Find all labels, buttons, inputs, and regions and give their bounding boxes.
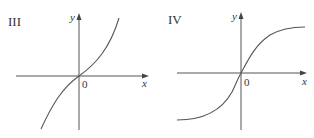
panel-iii: III x y 0: [8, 11, 149, 130]
panel-iv: IV x y 0: [168, 10, 307, 130]
y-axis-label: y: [231, 10, 237, 22]
panel-label: III: [8, 14, 21, 29]
panel-label: IV: [168, 12, 182, 27]
x-axis-label: x: [301, 75, 307, 87]
y-axis-arrow-icon: [77, 13, 82, 20]
curve-iii: [41, 18, 119, 129]
graphs-figure: III x y 0 IV x y 0: [0, 0, 314, 138]
x-axis-label: x: [141, 77, 147, 89]
y-axis-arrow-icon: [239, 12, 244, 19]
origin-label: 0: [244, 76, 250, 88]
y-axis-label: y: [69, 11, 75, 23]
origin-label: 0: [82, 78, 88, 90]
